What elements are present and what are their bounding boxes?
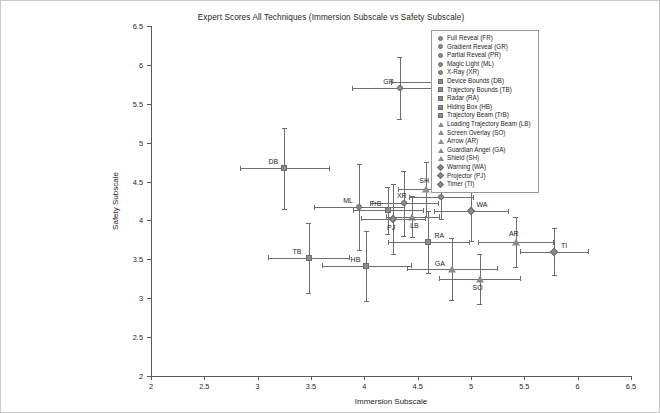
y-tick-label: 3.5 (125, 255, 143, 264)
y-error-cap-low (449, 300, 454, 301)
legend-label: Warning (WA) (447, 163, 486, 172)
y-error-cap-low (364, 301, 369, 302)
legend-marker-icon (436, 79, 445, 84)
x-error-cap-low (520, 249, 521, 254)
legend-item[interactable]: Screen Overlay (SO) (436, 129, 535, 138)
y-tick (147, 143, 151, 144)
point-label-tb: TB (292, 247, 301, 254)
legend-item[interactable]: Magic Light (ML) (436, 60, 535, 69)
legend-item[interactable]: Warning (WA) (436, 163, 535, 172)
marker-diamond[interactable] (467, 207, 475, 215)
legend-item[interactable]: X-Ray (XR) (436, 68, 535, 77)
marker-square[interactable] (425, 239, 431, 245)
legend-marker-icon (436, 122, 445, 127)
point-label-ti: TI (561, 241, 567, 248)
x-error-cap-high (520, 276, 521, 281)
x-tick-label: 4.5 (413, 382, 423, 391)
y-tick-label: 4 (125, 216, 143, 225)
legend-item[interactable]: Gradient Reveal (GR) (436, 43, 535, 52)
y-tick (147, 259, 151, 260)
marker-square[interactable] (306, 255, 312, 261)
point-label-gr: GR (383, 78, 394, 85)
legend-item[interactable]: Trajectory Beam (TrB) (436, 111, 535, 120)
chart-figure: Expert Scores All Techniques (Immersion … (0, 0, 660, 413)
x-error-cap-low (439, 276, 440, 281)
legend-marker-icon (436, 156, 445, 161)
y-error-cap-high (282, 128, 287, 129)
legend-item[interactable]: Full Reveal (FR) (436, 34, 535, 43)
marker-circle[interactable] (438, 194, 444, 200)
marker-square[interactable] (281, 165, 287, 171)
marker-circle[interactable] (356, 204, 362, 210)
marker-circle[interactable] (397, 85, 403, 91)
x-error-cap-low (314, 205, 315, 210)
x-error-cap-high (438, 201, 439, 206)
legend-marker-icon (436, 53, 445, 58)
y-error-cap-low (477, 304, 482, 305)
legend-item[interactable]: Partial Reveal (PR) (436, 51, 535, 60)
point-label-ar: AR (509, 230, 519, 237)
y-tick (147, 376, 151, 377)
legend-marker-icon (436, 182, 445, 187)
legend-item[interactable]: Timer (TI) (436, 180, 535, 189)
legend-marker-icon (436, 130, 445, 135)
chart-title: Expert Scores All Techniques (Immersion … (1, 13, 660, 22)
y-tick (147, 182, 151, 183)
marker-circle[interactable] (401, 200, 407, 206)
x-error-cap-high (508, 209, 509, 214)
y-tick-label: 6 (125, 60, 143, 69)
x-error-cap-high (423, 208, 424, 213)
y-error-cap-low (426, 273, 431, 274)
legend-label: Radar (RA) (447, 94, 479, 103)
x-error-cap-high (411, 263, 412, 268)
y-tick-label: 2.5 (125, 333, 143, 342)
legend-marker-icon (436, 148, 445, 153)
y-error-cap-high (513, 217, 518, 218)
legend-item[interactable]: Guardian Angel (GA) (436, 146, 535, 155)
y-axis-label: Safety Subscale (111, 172, 120, 230)
x-tick-label: 5 (469, 382, 473, 391)
legend-label: X-Ray (XR) (447, 68, 479, 77)
x-tick (204, 376, 205, 380)
y-tick-label: 6.5 (125, 22, 143, 31)
y-tick-label: 5 (125, 138, 143, 147)
legend-item[interactable]: Device Bounds (DB) (436, 77, 535, 86)
x-error-cap-low (434, 209, 435, 214)
marker-triangle[interactable] (512, 239, 520, 246)
legend-label: Guardian Angel (GA) (447, 146, 505, 155)
legend-item[interactable]: Arrow (AR) (436, 137, 535, 146)
legend-label: Arrow (AR) (447, 137, 478, 146)
legend-label: Partial Reveal (PR) (447, 51, 501, 60)
marker-square[interactable] (385, 207, 391, 213)
chart-legend: Full Reveal (FR)Gradient Reveal (GR)Part… (431, 30, 539, 193)
x-error-cap-high (425, 216, 426, 221)
y-error-cap-low (385, 234, 390, 235)
marker-square[interactable] (363, 263, 369, 269)
point-label-wa: WA (476, 201, 487, 208)
y-error-cap-high (385, 187, 390, 188)
y-error-cap-high (364, 231, 369, 232)
legend-item[interactable]: Shield (SH) (436, 154, 535, 163)
marker-diamond[interactable] (550, 247, 558, 255)
legend-marker-icon (436, 105, 445, 110)
legend-label: Shield (SH) (447, 154, 479, 163)
marker-triangle[interactable] (448, 265, 456, 272)
legend-label: Gradient Reveal (GR) (447, 43, 508, 52)
x-error-cap-low (478, 240, 479, 245)
x-error-cap-low (407, 266, 408, 271)
legend-item[interactable]: Hiding Box (HB) (436, 103, 535, 112)
point-label-xr: XR (397, 192, 407, 199)
x-tick (151, 376, 152, 380)
y-error-cap-low (391, 254, 396, 255)
y-error-cap-high (391, 184, 396, 185)
x-error-cap-low (352, 86, 353, 91)
legend-item[interactable]: Loading Trajectory Beam (LB) (436, 120, 535, 129)
x-axis-line (151, 376, 631, 377)
legend-item[interactable]: Projector (PJ) (436, 172, 535, 181)
marker-triangle[interactable] (476, 275, 484, 282)
point-label-trb: TrB (370, 200, 381, 207)
marker-triangle[interactable] (422, 186, 430, 193)
legend-item[interactable]: Trajectory Bounds (TB) (436, 86, 535, 95)
legend-item[interactable]: Radar (RA) (436, 94, 535, 103)
x-tick-label: 3.5 (306, 382, 316, 391)
